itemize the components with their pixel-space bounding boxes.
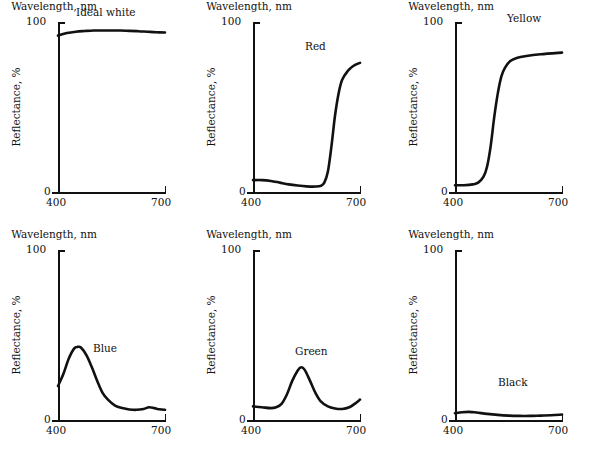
series-curve bbox=[253, 63, 360, 187]
x-tick-label-400: 400 bbox=[46, 196, 66, 208]
x-axis-title: Wavelength, nm bbox=[195, 228, 303, 240]
x-axis-line bbox=[253, 192, 361, 194]
x-tick-label-700: 700 bbox=[548, 196, 568, 208]
panel-blue: 100 0 400 700 Wavelength, nm Reflectance… bbox=[0, 228, 203, 457]
y-tick-label-100: 100 bbox=[26, 243, 46, 255]
x-axis-line bbox=[58, 420, 166, 422]
x-axis-title: Wavelength, nm bbox=[0, 228, 108, 240]
series-curve bbox=[58, 347, 165, 410]
y-tick-label-100: 100 bbox=[423, 243, 443, 255]
x-axis-title: Wavelength, nm bbox=[397, 0, 505, 12]
x-tick-label-700: 700 bbox=[548, 424, 568, 436]
x-axis-line bbox=[455, 192, 563, 194]
x-axis-title: Wavelength, nm bbox=[195, 0, 303, 12]
y-tick-label-100: 100 bbox=[221, 243, 241, 255]
x-axis-line bbox=[58, 192, 166, 194]
y-axis-title: Reflectance, % bbox=[10, 275, 22, 395]
y-axis-title: Reflectance, % bbox=[407, 275, 419, 395]
x-tick-label-400: 400 bbox=[443, 196, 463, 208]
curve-plot bbox=[455, 22, 562, 192]
panel-green: 100 0 400 700 Wavelength, nm Reflectance… bbox=[195, 228, 398, 457]
y-tick-label-100: 100 bbox=[221, 15, 241, 27]
curve-plot bbox=[58, 250, 165, 420]
series-label-red: Red bbox=[305, 40, 326, 52]
panel-black: 100 0 400 700 Wavelength, nm Reflectance… bbox=[397, 228, 600, 457]
x-tick-label-700: 700 bbox=[346, 196, 366, 208]
series-label-ideal-white: Ideal white bbox=[76, 6, 136, 18]
x-tick-label-700: 700 bbox=[151, 196, 171, 208]
x-tick-label-400: 400 bbox=[241, 196, 261, 208]
series-label-yellow: Yellow bbox=[507, 12, 541, 24]
y-axis-title: Reflectance, % bbox=[205, 47, 217, 167]
x-axis-title: Wavelength, nm bbox=[397, 228, 505, 240]
y-axis-title: Reflectance, % bbox=[407, 47, 419, 167]
series-label-black: Black bbox=[498, 376, 528, 388]
x-axis-line bbox=[253, 420, 361, 422]
x-tick-label-700: 700 bbox=[346, 424, 366, 436]
series-curve bbox=[455, 412, 562, 416]
reflectance-spectra-figure: 100 0 400 700 Wavelength, nm Reflectance… bbox=[0, 0, 610, 458]
series-label-green: Green bbox=[295, 345, 328, 357]
curve-plot bbox=[58, 22, 165, 192]
y-axis-title: Reflectance, % bbox=[10, 47, 22, 167]
y-tick-label-100: 100 bbox=[423, 15, 443, 27]
series-curve bbox=[58, 30, 165, 35]
x-tick-label-400: 400 bbox=[241, 424, 261, 436]
panel-red: 100 0 400 700 Wavelength, nm Reflectance… bbox=[195, 0, 398, 229]
panel-yellow: 100 0 400 700 Wavelength, nm Reflectance… bbox=[397, 0, 600, 229]
x-axis-line bbox=[455, 420, 563, 422]
x-tick-label-700: 700 bbox=[151, 424, 171, 436]
series-curve bbox=[455, 53, 562, 186]
x-tick-label-400: 400 bbox=[46, 424, 66, 436]
curve-plot bbox=[253, 250, 360, 420]
series-label-blue: Blue bbox=[93, 342, 117, 354]
x-tick-label-400: 400 bbox=[443, 424, 463, 436]
y-tick-label-100: 100 bbox=[26, 15, 46, 27]
y-axis-title: Reflectance, % bbox=[205, 275, 217, 395]
series-curve bbox=[253, 367, 360, 409]
curve-plot bbox=[455, 250, 562, 420]
panel-ideal-white: 100 0 400 700 Wavelength, nm Reflectance… bbox=[0, 0, 203, 229]
